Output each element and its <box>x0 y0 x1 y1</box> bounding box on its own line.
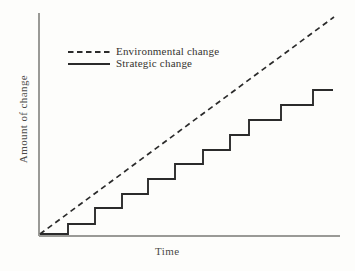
legend-label-environmental-change: Environmental change <box>116 45 219 57</box>
chart-figure: Environmental change Strategic change Am… <box>0 0 355 271</box>
chart-plot-area <box>0 0 355 271</box>
legend-label-strategic-change: Strategic change <box>116 57 192 69</box>
y-axis-title: Amount of change <box>17 54 29 184</box>
series-strategic-change-step <box>40 90 333 234</box>
x-axis-title: Time <box>155 245 179 257</box>
